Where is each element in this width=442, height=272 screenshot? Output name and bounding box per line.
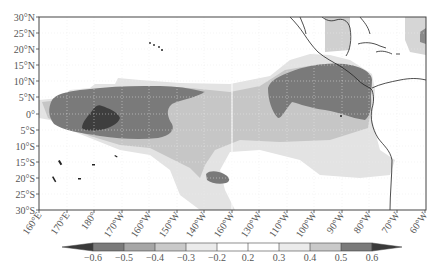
x-label: 90°W bbox=[324, 209, 347, 235]
y-label: 20°N bbox=[14, 44, 35, 55]
colorbar-segment bbox=[310, 243, 341, 251]
x-label: 130°W bbox=[238, 209, 264, 239]
colorbar-label: −0.6 bbox=[84, 252, 102, 263]
y-label: 10°S bbox=[15, 141, 35, 152]
colorbar-extend-low bbox=[62, 243, 93, 251]
x-label: 110°W bbox=[267, 209, 292, 239]
colorbar-label: 0.3 bbox=[273, 252, 286, 263]
y-label: 30°N bbox=[14, 12, 35, 23]
x-label: 160°W bbox=[128, 209, 154, 239]
x-axis: 160°E 170°E 180° 170°W 160°W 150°W 140°W… bbox=[20, 209, 430, 239]
colorbar-segment bbox=[217, 243, 248, 251]
colorbar-label: 0.4 bbox=[304, 252, 317, 263]
x-label: 180° bbox=[79, 210, 99, 232]
x-label: 60°W bbox=[407, 209, 430, 235]
colorbar-segment bbox=[124, 243, 155, 251]
colorbar-label: −0.3 bbox=[177, 252, 195, 263]
colorbar-segment bbox=[279, 243, 310, 251]
colorbar-segment bbox=[186, 243, 217, 251]
x-label: 150°W bbox=[156, 209, 182, 239]
contour-gulf-patch bbox=[325, 17, 350, 52]
y-label: 15°S bbox=[15, 157, 35, 168]
colorbar-extend-high bbox=[372, 243, 402, 251]
y-label: 5°N bbox=[19, 92, 35, 103]
y-label: 15°N bbox=[14, 60, 35, 71]
colorbar: −0.6 −0.5 −0.4 −0.3 −0.2 0.2 0.3 0.4 0.5… bbox=[62, 243, 402, 263]
x-label: 140°W bbox=[183, 209, 209, 239]
colorbar-segment bbox=[155, 243, 186, 251]
colorbar-label: −0.4 bbox=[146, 252, 164, 263]
map-plot-area bbox=[39, 17, 426, 210]
y-label: 5°S bbox=[20, 125, 35, 136]
x-label: 160°W bbox=[211, 209, 237, 239]
colorbar-segment bbox=[93, 243, 124, 251]
colorbar-label: −0.5 bbox=[115, 252, 133, 263]
y-axis: 30°N 25°N 20°N 15°N 10°N 5°N 0° 5°S 10°S… bbox=[14, 12, 39, 216]
colorbar-label: 0.6 bbox=[366, 252, 379, 263]
colorbar-segment bbox=[248, 243, 279, 251]
colorbar-label: 0.2 bbox=[242, 252, 255, 263]
y-label: 0° bbox=[26, 109, 35, 120]
x-label: 170°E bbox=[48, 210, 71, 237]
x-label: 80°W bbox=[351, 209, 374, 235]
colorbar-label: 0.5 bbox=[335, 252, 348, 263]
x-label: 170°W bbox=[101, 209, 127, 239]
y-label: 10°N bbox=[14, 76, 35, 87]
colorbar-label: −0.2 bbox=[208, 252, 226, 263]
x-label: 100°W bbox=[293, 209, 319, 239]
y-label: 20°S bbox=[15, 173, 35, 184]
x-label: 70°W bbox=[379, 209, 402, 235]
y-label: 25°S bbox=[15, 189, 35, 200]
map-figure: 30°N 25°N 20°N 15°N 10°N 5°N 0° 5°S 10°S… bbox=[0, 0, 442, 272]
y-label: 25°N bbox=[14, 28, 35, 39]
colorbar-segment bbox=[341, 243, 372, 251]
